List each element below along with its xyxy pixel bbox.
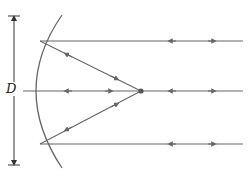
focal-point — [138, 88, 143, 93]
aperture-label: D — [5, 82, 17, 96]
mirror-diagram — [0, 0, 250, 177]
reflected-ray-bottom — [40, 91, 141, 144]
reflected-ray-top — [40, 41, 141, 91]
